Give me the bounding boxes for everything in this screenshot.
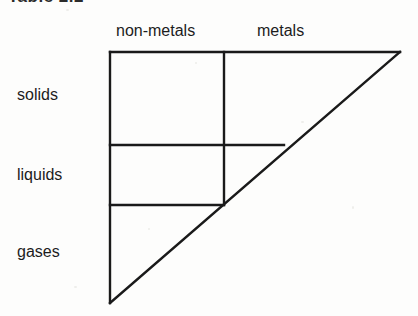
figure-container: Table 2.2 non-metals metals solids liqui… bbox=[0, 0, 418, 316]
triangle-hypotenuse bbox=[110, 52, 400, 303]
triangle-diagram bbox=[0, 0, 418, 316]
